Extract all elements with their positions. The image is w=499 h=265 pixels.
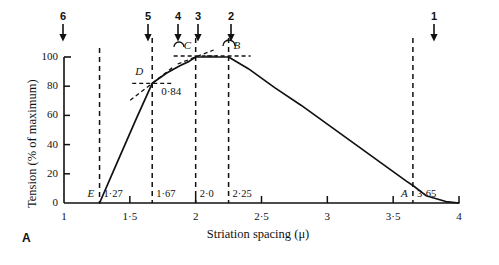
arrow-number-1: 1 (414, 11, 454, 22)
figure-panel-a: 02040608010011·522·533·541·271·672·02·25… (0, 0, 499, 265)
tension-curve (100, 57, 459, 203)
x-tick-label-5: 3·5 (373, 211, 413, 222)
arrow-markers (59, 24, 437, 42)
point-label-A: A (401, 188, 408, 199)
point-label-D: D (135, 66, 143, 77)
x-tick-label-3: 2·5 (242, 211, 282, 222)
x-tick-label-2: 2 (176, 211, 216, 222)
y-axis-title: Tension (% of maximum) (26, 79, 39, 208)
dashed-reference-lines (100, 38, 413, 203)
angle-arc-left (174, 42, 184, 47)
x-axis-ticks (130, 196, 459, 203)
arrow-number-2: 2 (211, 11, 251, 22)
x-axis-title: Striation spacing (μ) (148, 228, 368, 241)
x-tick-label-1: 1·5 (110, 211, 150, 222)
x-tick-label-4: 3 (307, 211, 347, 222)
y-axis-ticks (64, 86, 70, 174)
x-tick-label-0: 1 (44, 211, 84, 222)
reference-value-B: 2·25 (233, 189, 252, 200)
point-label-E: E (88, 188, 95, 199)
slope-annotation: 0·84 (161, 86, 181, 97)
reference-value-D: 1·67 (156, 189, 175, 200)
arrow-number-6: 6 (43, 11, 83, 22)
x-tick-label-6: 4 (439, 211, 479, 222)
reference-value-C: 2·0 (200, 189, 214, 200)
reference-value-A: 3·65 (417, 189, 436, 200)
point-label-C: C (184, 40, 191, 51)
point-label-B: B (234, 40, 241, 51)
panel-label: A (22, 232, 31, 244)
reference-value-E: 1·27 (104, 189, 123, 200)
y-tick-label-5: 100 (14, 51, 58, 62)
chart-canvas (0, 0, 499, 265)
